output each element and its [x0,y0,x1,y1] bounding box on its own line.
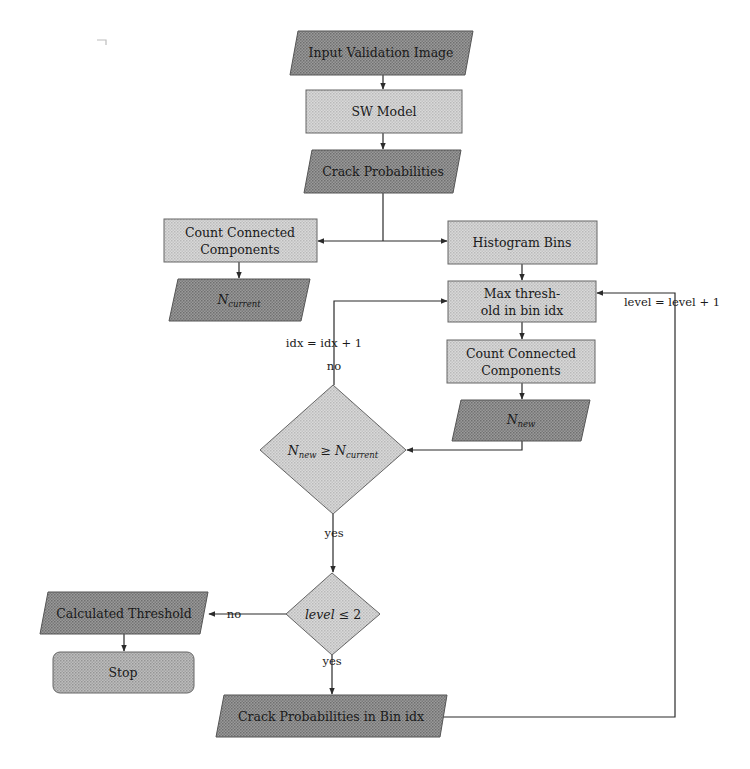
edge-nnew-to-compare [407,441,522,450]
decision-label: level ≤ 2 [305,607,361,622]
node-crack-probabilities: Crack Probabilities [304,150,461,193]
node-label-line1: Max thresh- [484,286,560,301]
label-yes-level: yes [321,654,341,668]
node-stop: Stop [53,652,194,693]
node-label-line1: Count Connected [466,346,576,361]
node-count-connected-components-right: Count Connected Components [447,340,595,383]
scan-artifact [97,40,106,45]
node-histogram-bins: Histogram Bins [448,221,597,264]
node-label: Calculated Threshold [56,606,192,621]
math-lhs: level [305,607,335,622]
node-label: Stop [108,665,137,680]
node-label: Crack Probabilities [322,164,444,179]
node-count-connected-components-left: Count Connected Components [164,219,317,262]
node-sw-model: SW Model [306,90,462,133]
math-subscript: new [518,419,537,429]
flowchart-canvas: Input Validation Image SW Model Crack Pr… [0,0,750,769]
label-level-increment: level = level + 1 [624,295,720,309]
math-rhs-subscript: current [346,450,379,460]
label-yes-compare: yes [323,526,343,540]
label-idx-increment: idx = idx + 1 [286,336,362,350]
math-operator: ≥ [317,443,335,458]
node-crack-probabilities-in-bin: Crack Probabilities in Bin idx [216,695,447,737]
node-label: Input Validation Image [308,45,453,60]
decision-level: level ≤ 2 [286,573,380,655]
math-operator: ≤ 2 [335,607,361,622]
math-subscript: current [228,299,261,309]
node-input-validation-image: Input Validation Image [290,31,473,75]
node-label: Histogram Bins [473,235,572,250]
node-label: SW Model [351,104,416,119]
node-n-new: Nnew [452,400,590,441]
decision-n-compare: Nnew ≥ Ncurrent [260,385,406,514]
node-label: Crack Probabilities in Bin idx [238,709,424,724]
label-no-level: no [227,607,241,621]
node-label-line2: old in bin idx [481,303,564,318]
math-lhs-subscript: new [299,450,318,460]
label-no-compare: no [327,359,341,373]
node-label-line2: Components [481,363,560,378]
node-label-line2: Components [200,242,279,257]
node-n-current: Ncurrent [169,279,310,321]
node-label-line1: Count Connected [185,225,295,240]
node-max-threshold: Max thresh- old in bin idx [448,281,596,322]
node-calculated-threshold: Calculated Threshold [40,592,208,634]
